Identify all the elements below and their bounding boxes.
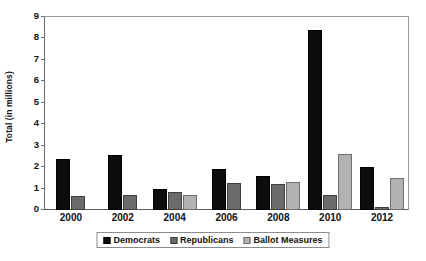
y-axis-title: Total (in millions) <box>2 0 16 214</box>
legend-label: Democrats <box>113 235 160 245</box>
bar-group <box>45 17 408 210</box>
x-axis-tick-label: 2000 <box>60 212 82 223</box>
y-axis-tick-label: 1 <box>34 183 39 193</box>
bar <box>375 207 389 210</box>
legend-item: Democrats <box>103 235 160 245</box>
bar <box>390 178 404 210</box>
y-axis-tick-labels: 0123456789 <box>16 16 44 210</box>
legend-item: Republicans <box>170 235 234 245</box>
y-axis-tick-label: 5 <box>34 97 39 107</box>
x-axis-tick-label: 2006 <box>215 212 237 223</box>
legend-item: Ballot Measures <box>244 235 323 245</box>
legend-swatch <box>170 237 177 244</box>
y-axis-tick-label: 0 <box>34 204 39 214</box>
y-axis-tick-label: 9 <box>34 11 39 21</box>
y-axis-tick-label: 7 <box>34 54 39 64</box>
y-axis-tick-label: 2 <box>34 161 39 171</box>
y-axis-tick-label: 8 <box>34 33 39 43</box>
x-axis-tick-labels: 2000200220042006200820102012 <box>45 212 408 228</box>
x-axis-tick-label: 2008 <box>267 212 289 223</box>
x-axis-tick-label: 2012 <box>371 212 393 223</box>
legend-label: Republicans <box>180 235 234 245</box>
bar <box>360 167 374 210</box>
legend-swatch <box>244 237 251 244</box>
x-axis-tick-label: 2002 <box>112 212 134 223</box>
x-axis-tick-label: 2004 <box>164 212 186 223</box>
y-axis-tick-label: 3 <box>34 140 39 150</box>
bars-layer <box>45 17 408 210</box>
y-axis-tick-label: 6 <box>34 76 39 86</box>
x-axis-tick-label: 2010 <box>319 212 341 223</box>
legend-label: Ballot Measures <box>254 235 323 245</box>
y-axis-tick-label: 4 <box>34 118 39 128</box>
bar-chart-figure: Total (in millions) 0123456789 200020022… <box>0 0 426 261</box>
chart-legend: DemocratsRepublicansBallot Measures <box>96 232 329 248</box>
y-axis-title-label: Total (in millions) <box>4 71 14 143</box>
legend-swatch <box>103 237 110 244</box>
